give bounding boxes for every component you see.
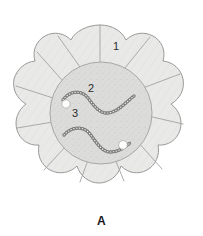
white-dot-right (119, 141, 128, 150)
callout-label-1: 1 (113, 41, 119, 52)
white-dot-left (62, 100, 70, 108)
panel-letter: A (0, 214, 203, 228)
callout-label-3: 3 (72, 108, 78, 119)
figure-panel: 1 2 3 A (0, 0, 203, 236)
callout-label-2: 2 (88, 83, 94, 94)
tissue-cross-section-diagram (0, 0, 203, 236)
